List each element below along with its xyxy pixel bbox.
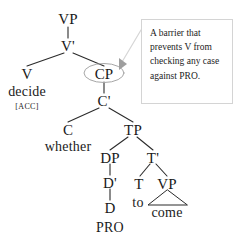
node-vp-top: VP <box>58 12 78 27</box>
edge-tp-dp <box>110 137 128 150</box>
node-t: T <box>134 177 143 192</box>
edge-cbar-tp <box>109 108 133 122</box>
annotation-callout-text: A barrier that prevents V from checking … <box>150 26 225 83</box>
node-v-feature-acc: [ACC] <box>15 103 38 111</box>
node-cbar: C' <box>97 94 110 109</box>
edge-cbar-c <box>68 108 99 122</box>
node-d-lexical-pro: PRO <box>96 221 124 235</box>
node-tbar: T' <box>147 151 159 166</box>
annotation-callout-box: A barrier that prevents V from checking … <box>141 19 233 104</box>
node-c: C <box>63 123 73 138</box>
edge-tp-tbar <box>137 137 153 150</box>
syntax-tree-figure: VP V' V decide [ACC] CP C' C whether TP … <box>0 0 238 243</box>
node-dbar: D' <box>103 176 117 191</box>
edge-vbar-v <box>27 53 64 66</box>
node-vp-low-lexical-come: come <box>151 206 182 220</box>
node-dp: DP <box>100 151 120 166</box>
triangle-vp-come <box>148 190 187 205</box>
node-vbar: V' <box>61 39 75 54</box>
node-t-lexical-to: to <box>132 196 143 210</box>
node-vp-low: VP <box>157 177 177 192</box>
node-v: V <box>21 67 32 82</box>
node-cp: CP <box>95 67 114 82</box>
node-c-lexical-whether: whether <box>45 140 92 154</box>
node-d: D <box>104 201 115 216</box>
node-v-lexical-decide: decide <box>8 85 46 99</box>
node-tp: TP <box>124 123 142 138</box>
callout-leader-line <box>122 30 141 62</box>
